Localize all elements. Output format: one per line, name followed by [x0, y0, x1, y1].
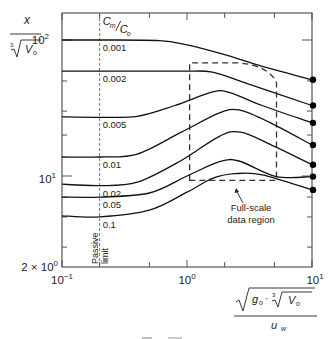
x-label-g: g — [252, 293, 259, 305]
y-label-root-index: 3 — [10, 42, 14, 48]
legend-title: CmCo — [103, 15, 131, 37]
passive-limit-label-2: limit — [100, 248, 110, 264]
legend-den-sub: o — [127, 30, 131, 37]
x-tick-label-10: 101 — [306, 272, 324, 286]
region-arrowhead — [235, 188, 240, 193]
curve-label: 0.1 — [103, 219, 116, 230]
x-label-v-sub: o — [296, 300, 300, 307]
endpoint-marker — [310, 173, 316, 179]
x-label-g-sub: o — [259, 299, 263, 306]
y-tick-label-2: 2 × 100 — [21, 259, 58, 273]
curve-label: 0.002 — [103, 73, 127, 84]
endpoint-marker — [310, 142, 316, 148]
x-label-root-index: 3 — [272, 292, 276, 298]
x-tick-label-1: 100 — [178, 272, 196, 286]
endpoint-marker — [310, 120, 316, 126]
passive-limit-label: Passive — [90, 232, 100, 264]
endpoint-marker — [310, 102, 316, 108]
y-label-numerator: x — [23, 13, 31, 27]
curve-label: 0.005 — [103, 119, 127, 130]
curve-label: 0.01 — [103, 159, 122, 170]
x-axis-label: go·3Vouw — [234, 288, 317, 332]
full-scale-data-region: Full-scaledata region — [190, 63, 277, 225]
curve-0_1: 0.1 — [62, 173, 316, 230]
region-label-line2: data region — [227, 214, 275, 225]
x-label-u-sub: w — [281, 325, 287, 332]
legend-num-sub: m — [110, 22, 116, 29]
endpoint-marker — [310, 77, 316, 83]
x-tick-label-0.1: 10−1 — [51, 272, 73, 286]
endpoint-marker — [310, 162, 316, 168]
chart: Passivelimit Full-scaledata region 0.001… — [0, 0, 329, 339]
region-label-line1: Full-scale — [231, 202, 272, 213]
x-label-outer-root — [236, 288, 315, 311]
x-label-dot: · — [265, 293, 268, 304]
curve-label: 0.05 — [103, 199, 122, 210]
y-tick-label-10: 101 — [39, 171, 57, 185]
x-label-u: u — [271, 319, 277, 331]
endpoint-marker — [310, 187, 316, 193]
y-label-v-sub: o — [33, 49, 37, 56]
curve-label: 0.001 — [103, 42, 127, 53]
